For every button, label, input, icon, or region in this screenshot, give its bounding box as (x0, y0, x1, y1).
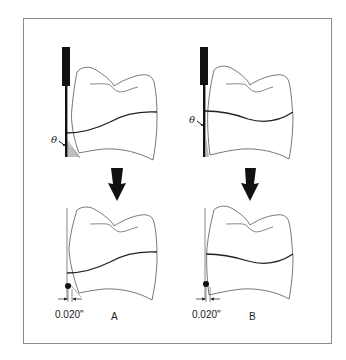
tooth-outline (71, 67, 157, 160)
theta-label: θ (189, 114, 195, 125)
down-arrow-icon (241, 168, 259, 201)
panel-b-top: θ (189, 47, 293, 159)
occlusal-groove (90, 224, 138, 232)
instrument-handle (200, 47, 208, 85)
occlusal-groove (226, 224, 273, 232)
dimension-arrowhead (202, 298, 206, 301)
dimension-arrowhead (210, 298, 214, 301)
theta-pointer-dot (63, 144, 65, 146)
occlusal-groove (226, 84, 273, 92)
panel-a: θ 0.020" A (51, 47, 157, 322)
down-arrow-icon (108, 168, 126, 201)
dimension-arrowhead (72, 298, 76, 301)
instrument-handle (62, 47, 70, 86)
theta-pointer-dot (201, 124, 203, 126)
dental-diagram: θ 0.020" A (0, 0, 346, 360)
margin-line (66, 112, 157, 133)
dimension-label: 0.020" (55, 309, 84, 320)
margin-line (205, 111, 293, 121)
dimension-arrowhead (64, 298, 68, 301)
panel-a-top: θ (51, 47, 157, 160)
instrument-shank (203, 84, 205, 157)
tooth-outline (69, 207, 157, 300)
tooth-outline (207, 206, 293, 299)
margin-line (67, 252, 157, 273)
panel-label-b: B (249, 311, 256, 322)
theta-label: θ (51, 134, 57, 145)
margin-dot (65, 283, 71, 289)
panel-b-bottom: 0.020" B (192, 206, 293, 322)
panel-b: θ 0.020" B (189, 47, 293, 322)
margin-line (206, 254, 293, 263)
panel-label-a: A (111, 311, 118, 322)
occlusal-groove (90, 84, 138, 92)
dimension-label: 0.020" (192, 309, 221, 320)
panel-a-bottom: 0.020" A (55, 207, 157, 322)
margin-dot (203, 281, 209, 287)
instrument-shank (65, 85, 67, 157)
flare-line (70, 284, 81, 297)
